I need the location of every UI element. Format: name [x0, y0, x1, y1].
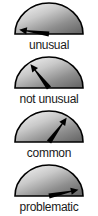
gauge-dial-problematic [13, 163, 85, 200]
gauge-face-icon [13, 1, 85, 38]
gauge-unit: unusual [0, 0, 98, 54]
gauge-face-icon [13, 163, 85, 200]
gauge-label-problematic: problematic [2, 200, 96, 214]
gauge-unit: problematic [0, 162, 98, 216]
gauge-label-unusual: unusual [2, 38, 96, 52]
gauge-face-icon [13, 109, 85, 146]
gauge-label-not-unusual: not unusual [2, 92, 96, 106]
gauge-dial-not-unusual [13, 55, 85, 92]
gauge-dial-unusual [13, 1, 85, 38]
gauge-unit: not unusual [0, 54, 98, 108]
gauge-dial-series: unusual not unusual [0, 0, 98, 216]
gauge-face-icon [13, 55, 85, 92]
gauge-dial-common [13, 109, 85, 146]
gauge-unit: common [0, 108, 98, 162]
gauge-label-common: common [2, 146, 96, 160]
